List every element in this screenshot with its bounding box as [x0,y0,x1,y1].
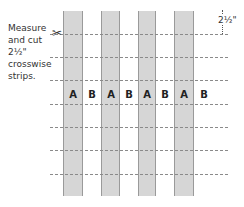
strip-label: A [63,89,83,100]
cut-line [50,174,228,175]
instruction-line: strips. [8,70,64,82]
instruction-line: 2½" [8,46,64,58]
instruction-line: and cut [8,34,64,46]
strip-label: A [137,89,157,100]
cut-line [50,34,228,35]
strip-label: B [155,89,175,100]
cut-line [50,104,228,105]
strip-label: A [174,89,194,100]
cut-line [50,57,228,58]
cut-line [50,127,228,128]
instruction-text: Measure and cut 2½" crosswise strips. [8,22,64,82]
strip-label: B [82,89,102,100]
cut-line [50,80,228,81]
strip-label: B [119,89,139,100]
cut-line [50,150,228,151]
instruction-line: crosswise [8,58,64,70]
strip-label: B [194,89,214,100]
instruction-line: Measure [8,22,64,34]
dimension-label: 2½" [217,15,238,25]
strip-label: A [101,89,121,100]
